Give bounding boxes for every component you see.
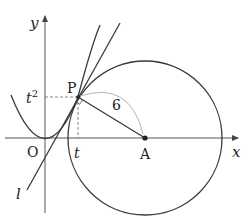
diagram-canvas: y x O P A t t2 l 6 [0, 0, 251, 223]
point-a [142, 135, 147, 140]
line-l-label: l [16, 185, 21, 203]
segment-length-label: 6 [112, 97, 121, 113]
origin-label: O [27, 144, 38, 160]
point-a-label: A [139, 146, 151, 162]
t-squared-label: t2 [26, 88, 38, 106]
point-p-label: P [67, 80, 76, 96]
x-axis-label: x [232, 143, 241, 161]
t-label: t [74, 145, 80, 161]
y-axis-label: y [29, 14, 39, 32]
point-p [76, 95, 80, 99]
